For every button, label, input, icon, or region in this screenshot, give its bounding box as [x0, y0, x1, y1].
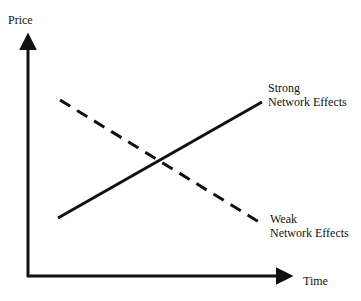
strong-label-line2: Network Effects	[268, 95, 347, 109]
weak-label-line2: Network Effects	[270, 226, 349, 240]
strong-label-line1: Strong	[268, 81, 347, 95]
weak-label: Weak Network Effects	[270, 212, 349, 240]
price-time-diagram	[0, 0, 361, 301]
x-axis-label: Time	[303, 274, 328, 288]
y-axis-label: Price	[8, 13, 33, 27]
strong-network-effects-line	[58, 102, 262, 218]
weak-label-line1: Weak	[270, 212, 349, 226]
strong-label: Strong Network Effects	[268, 81, 347, 109]
